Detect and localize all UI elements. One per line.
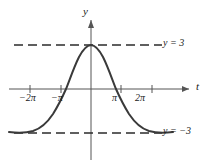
y-axis-arrowhead — [88, 20, 94, 28]
y-axis — [88, 20, 94, 160]
t-axis — [9, 86, 189, 92]
plot-canvas — [0, 0, 210, 163]
t-axis-label: t — [196, 81, 199, 92]
graph-figure: y t −2π −π π 2π y = 3 y = −3 — [0, 0, 210, 163]
tick-label-pi: π — [112, 93, 117, 103]
tick-label-two-pi: 2π — [135, 93, 145, 103]
t-axis-arrowhead — [182, 86, 189, 92]
upper-asymptote-label: y = 3 — [163, 38, 184, 48]
tick-label-neg-pi: −π — [51, 93, 63, 103]
tick-label-neg-two-pi: −2π — [19, 93, 36, 103]
lower-asymptote-label: y = −3 — [163, 126, 191, 136]
y-axis-label: y — [83, 6, 88, 17]
